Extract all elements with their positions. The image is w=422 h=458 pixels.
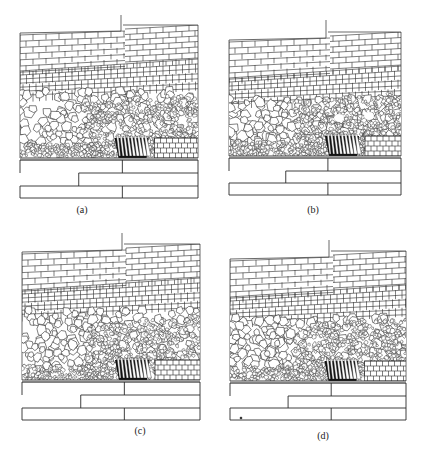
panel-label-a: (a) (62, 204, 102, 215)
model-diagram-c (0, 229, 211, 458)
panel-b: (b) (211, 0, 422, 229)
panel-label-b: (b) (293, 204, 333, 215)
panel-label-d: (d) (303, 430, 343, 441)
panel-c: (c) (0, 229, 211, 458)
panel-d: (d) (211, 229, 422, 458)
model-diagram-d (211, 229, 422, 458)
model-diagram-b (211, 0, 422, 229)
panel-label-c: (c) (120, 425, 160, 436)
panel-a: (a) (0, 0, 211, 229)
model-diagram-a (0, 0, 211, 229)
